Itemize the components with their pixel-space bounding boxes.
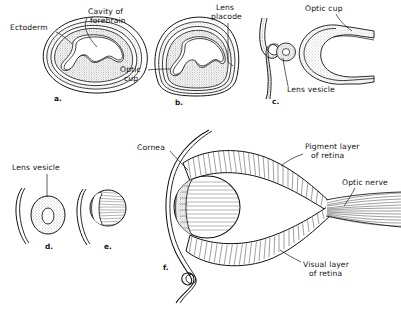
label-lens-placode-line2: placode [211, 12, 242, 21]
label-optic-cup-b-line2: cup [124, 74, 138, 83]
panel-letter-b: b. [175, 98, 183, 107]
label-pigment-line2: of retina [311, 151, 344, 160]
label-cornea: Cornea [137, 143, 165, 152]
label-optic-nerve: Optic nerve [342, 178, 388, 187]
label-cavity-line1: Cavity of [88, 7, 123, 16]
panel-letter-f: f. [163, 263, 169, 272]
label-lens-vesicle-d: Lens vesicle [12, 163, 60, 172]
panel-letter-e: e. [104, 242, 112, 251]
label-visual-line2: of retina [309, 269, 342, 278]
label-lens-placode-line1: Lens [216, 3, 234, 12]
panel-letter-a: a. [54, 94, 62, 103]
panel-letter-d: d. [45, 242, 53, 251]
figure-canvas: Ectoderm Cavity of forebrain a. Optic cu… [0, 0, 401, 312]
label-optic-cup-b-line1: Optic [120, 65, 141, 74]
eye-development-figure: Ectoderm Cavity of forebrain a. Optic cu… [0, 0, 401, 312]
panel-d-lens-vesicle-lumen [42, 208, 54, 224]
panel-letter-c: c. [272, 97, 279, 106]
label-cavity-line2: forebrain [90, 16, 126, 25]
label-pigment-line1: Pigment layer [305, 142, 360, 151]
label-visual-line1: Visual layer [303, 260, 350, 269]
label-optic-cup-c: Optic cup [305, 4, 343, 13]
label-lens-vesicle-c: Lens vesicle [287, 85, 335, 94]
label-ectoderm-line1: Ectoderm [10, 23, 48, 32]
panel-c-lens-vesicle-lumen [282, 49, 289, 56]
